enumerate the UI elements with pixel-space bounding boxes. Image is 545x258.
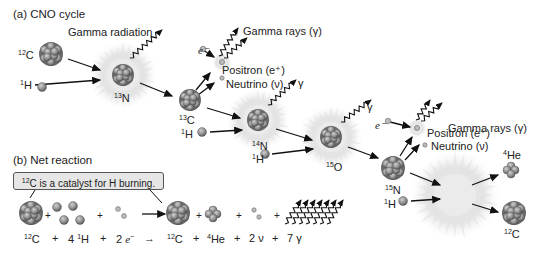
neutrino-2: [423, 143, 427, 147]
nucleus-c12: [39, 42, 63, 66]
gamma-radiation-label: Gamma radiation: [68, 27, 152, 38]
catalyst-pointer-right: [150, 190, 162, 203]
burst-final: [409, 149, 501, 241]
nuclide-label-n14: 14N: [252, 140, 268, 152]
equation-term-7gamma: 7 γ: [287, 233, 302, 244]
section-a-title: (a) CNO cycle: [13, 9, 85, 21]
equation-term-2e: 2 e−: [116, 233, 134, 245]
positron-2: [414, 125, 419, 130]
nuclide-label-c12-out: 12C: [504, 228, 520, 240]
gamma-rays-label-1: Gamma rays (γ): [243, 26, 322, 37]
equation-term-4h: 4 1H: [68, 233, 89, 245]
gamma-wave-positron-1a: [219, 28, 238, 56]
catalyst-pointer-left: [30, 190, 35, 198]
equation-term-2nu: 2 ν: [249, 233, 264, 244]
eq-plus-b: +: [97, 210, 103, 221]
section-b-title: (b) Net reaction: [13, 155, 92, 167]
eq-nucleus-c12-out: [166, 201, 190, 225]
arrow-n15-to-positron: [400, 137, 412, 156]
neutrino-label-1: Neutrino (ν): [226, 79, 283, 90]
eq-gamma-wave-1: [285, 200, 301, 224]
gamma-label-2: γ: [367, 102, 373, 113]
equation-term-c12-out: 12C: [167, 233, 183, 245]
eq-proton-2: [69, 202, 78, 211]
nuclide-label-h1: 1H: [20, 79, 32, 91]
nucleus-h1-1: [38, 83, 47, 92]
nuclide-label-h1-4: 1H: [384, 198, 396, 210]
eq-neutrino-2: [257, 215, 261, 219]
nucleus-h1-2: [198, 128, 207, 137]
nuclide-label-h1-3: 1H: [252, 153, 264, 165]
arrow-n15-to-neutrino: [405, 145, 419, 160]
equation-plus-5: +: [272, 233, 278, 244]
nuclide-label-c13: 13C: [179, 114, 195, 126]
nuclide-label-he4: 4He: [503, 149, 521, 161]
arrow-e-to-positron-2: [390, 122, 410, 127]
equation-term-c12: 12C: [24, 233, 40, 245]
nucleus-c13: [179, 89, 201, 111]
catalyst-note: 12C is a catalyst for H burning.: [13, 172, 164, 190]
positron-label-1: Positron (e⁺): [222, 65, 285, 76]
nucleus-n14: [247, 109, 269, 131]
neutrino-label-2: Neutrino (ν): [431, 141, 488, 152]
eq-electron-2: [122, 214, 127, 219]
eq-proton-3: [60, 216, 69, 225]
gamma-wave-positron-2a: [416, 100, 430, 120]
equation-plus-2: +: [100, 233, 106, 244]
nucleus-h1-4: [399, 197, 408, 206]
cno-cycle-diagram: +++++ (a) CNO cycle (b) Net reaction Gam…: [0, 0, 545, 258]
equation-arrow: →: [144, 233, 155, 244]
eq-neutrino-1: [252, 208, 256, 212]
eq-plus-e: +: [274, 210, 280, 221]
eq-plus-c: +: [196, 210, 202, 221]
electron-label-1: e⁻: [198, 45, 209, 56]
nuclide-label-c12: 12C: [18, 49, 34, 61]
equation-term-he4: 4He: [207, 233, 225, 245]
electron-label-2: e⁻: [375, 120, 386, 131]
electron-2: [385, 118, 391, 124]
equation-plus-1: +: [52, 233, 58, 244]
eq-electron-1: [116, 207, 121, 212]
nuclide-label-n13: 13N: [114, 92, 130, 104]
gamma-wave-positron-2b: [421, 103, 442, 121]
equation-plus-3: +: [193, 233, 199, 244]
nuclide-label-h1-2: 1H: [181, 128, 193, 140]
eq-nucleus-he4: [205, 206, 221, 222]
eq-proton-1: [53, 203, 62, 212]
positron-label-2: Positron (e⁺): [427, 128, 490, 139]
eq-nucleus-c12: [19, 201, 43, 225]
gamma-label-1: γ: [298, 78, 304, 89]
nuclide-label-o15: 15O: [326, 161, 342, 173]
neutrino-1: [220, 76, 224, 80]
nucleus-n13: [112, 64, 134, 86]
eq-plus-a: +: [45, 210, 51, 221]
equation-plus-4: +: [234, 233, 240, 244]
nucleus-o15: [320, 126, 342, 148]
nucleus-he4: [503, 162, 519, 178]
nucleus-n15: [381, 156, 405, 180]
nuclide-label-n15: 15N: [385, 184, 401, 196]
eq-plus-d: +: [236, 210, 242, 221]
nucleus-c12-out: [502, 201, 526, 225]
eq-proton-4: [76, 216, 85, 225]
